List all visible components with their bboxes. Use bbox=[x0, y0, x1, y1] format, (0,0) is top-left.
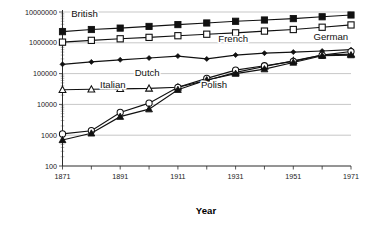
data-point-british bbox=[117, 25, 123, 31]
data-point-french bbox=[117, 36, 123, 42]
data-point-british bbox=[146, 23, 152, 29]
data-point-german bbox=[89, 59, 94, 64]
x-tick-label: 1931 bbox=[228, 172, 244, 181]
data-point-british bbox=[59, 29, 65, 35]
series-german bbox=[60, 47, 354, 67]
y-tick-label: 1000 bbox=[41, 131, 57, 140]
y-tick-label: 1000000 bbox=[29, 38, 57, 47]
data-point-german bbox=[204, 56, 209, 61]
series-label-german: German bbox=[313, 31, 348, 42]
data-point-british bbox=[204, 20, 210, 26]
x-tick-label: 1971 bbox=[343, 172, 359, 181]
data-point-british bbox=[319, 14, 325, 20]
y-tick-label: 10000 bbox=[37, 100, 57, 109]
data-point-british bbox=[348, 12, 354, 18]
x-tick-marks bbox=[63, 166, 352, 170]
y-tick-label: 10000000 bbox=[25, 8, 57, 17]
data-point-french bbox=[88, 37, 94, 43]
data-series-group bbox=[59, 12, 354, 143]
x-tick-label: 1911 bbox=[170, 172, 185, 181]
x-axis-title: Year bbox=[196, 205, 217, 216]
gridlines bbox=[63, 12, 352, 135]
series-label-british: British bbox=[71, 8, 98, 19]
data-point-german bbox=[175, 54, 180, 59]
series-line-italian bbox=[63, 55, 352, 140]
series-label-french: French bbox=[218, 33, 248, 44]
chart-figure: 100100010000100000100000010000000 187118… bbox=[0, 0, 365, 230]
x-tick-label: 1871 bbox=[55, 172, 71, 181]
data-point-french bbox=[261, 28, 267, 34]
y-tick-labels: 100100010000100000100000010000000 bbox=[25, 8, 57, 171]
data-point-british bbox=[175, 21, 181, 27]
series-label-polish: Polish bbox=[201, 79, 227, 90]
x-tick-label: 1951 bbox=[285, 172, 301, 181]
data-point-german bbox=[147, 56, 152, 61]
data-point-french bbox=[290, 26, 296, 32]
data-point-british bbox=[290, 16, 296, 22]
y-tick-label: 100 bbox=[45, 162, 57, 171]
data-point-german bbox=[60, 62, 65, 67]
data-point-italian bbox=[146, 106, 153, 112]
data-point-french bbox=[348, 22, 354, 28]
data-point-french bbox=[319, 24, 325, 30]
data-point-british bbox=[233, 18, 239, 24]
data-point-british bbox=[88, 26, 94, 32]
series-italian bbox=[59, 52, 354, 143]
data-point-german bbox=[262, 51, 267, 56]
data-point-german bbox=[291, 50, 296, 55]
series-label-dutch: Dutch bbox=[135, 67, 160, 78]
series-line-polish bbox=[63, 52, 352, 134]
x-tick-labels: 187118911911193119511971 bbox=[55, 172, 360, 181]
series-label-italian: Italian bbox=[100, 79, 126, 90]
data-point-french bbox=[146, 34, 152, 40]
y-tick-label: 100000 bbox=[33, 69, 57, 78]
data-point-german bbox=[118, 57, 123, 62]
log-line-chart: 100100010000100000100000010000000 187118… bbox=[0, 0, 365, 230]
x-tick-label: 1891 bbox=[112, 172, 128, 181]
data-point-french bbox=[204, 31, 210, 37]
data-point-french bbox=[59, 39, 65, 45]
data-point-german bbox=[233, 53, 238, 58]
data-point-british bbox=[261, 17, 267, 23]
data-point-french bbox=[175, 33, 181, 39]
